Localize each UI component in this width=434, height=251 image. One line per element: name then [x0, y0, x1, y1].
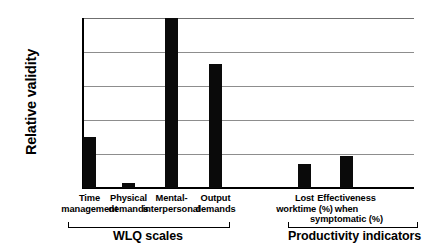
y-axis-title: Relative validity [23, 17, 39, 187]
bar [122, 183, 135, 188]
gridline [84, 52, 414, 53]
bar [298, 164, 311, 188]
gridline [84, 120, 414, 121]
group-bracket [68, 222, 230, 228]
bar [83, 137, 96, 188]
gridline [84, 86, 414, 87]
x-category-label-line: demands [176, 204, 256, 215]
bar [165, 18, 178, 188]
x-category-label-line: Output [176, 193, 256, 204]
gridline [84, 18, 414, 19]
gridline [84, 154, 414, 155]
group-label: WLQ scales [68, 229, 228, 243]
group-label: Productivity indicators [288, 229, 416, 243]
bar [340, 156, 353, 188]
x-category-label: Outputdemands [176, 193, 256, 214]
x-category-label: Effectivenesswhensymptomatic (%) [302, 193, 392, 225]
bar [209, 64, 222, 188]
x-category-label-line: when [302, 204, 392, 215]
bar-chart-figure: Relative validity 00.20.40.60.81 Timeman… [0, 0, 434, 251]
group-bracket [288, 222, 418, 228]
x-category-label-line: Effectiveness [302, 193, 392, 204]
plot-area: 00.20.40.60.81 [82, 18, 414, 188]
